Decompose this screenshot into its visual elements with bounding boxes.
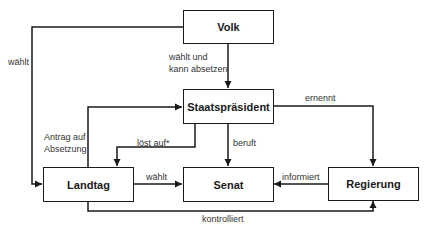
edge-landtag-staatspraesident	[88, 107, 182, 167]
node-regierung: Regierung	[328, 167, 419, 201]
node-staatspraesident: Staatspräsident	[183, 89, 274, 124]
node-landtag-label: Landtag	[67, 179, 110, 191]
edge-staatspraesident-regierung	[273, 106, 373, 166]
label-staatspraesident-landtag: löst auf*	[137, 138, 170, 150]
label-volk-landtag: wählt	[8, 57, 29, 69]
label-landtag-senat: wählt	[146, 172, 167, 184]
label-volk-staatspraesident-2: kann absetzen	[169, 64, 228, 76]
node-landtag: Landtag	[43, 167, 134, 202]
label-staatspraesident-senat: beruft	[233, 138, 256, 150]
label-volk-staatspraesident-1: wählt und	[169, 52, 208, 64]
node-volk-label: Volk	[217, 21, 239, 33]
node-staatspraesident-label: Staatspräsident	[187, 101, 270, 113]
label-regierung-senat: informiert	[282, 172, 320, 184]
label-landtag-staatspraesident-1: Antrag auf	[44, 132, 86, 144]
node-regierung-label: Regierung	[346, 178, 400, 190]
edge-volk-landtag	[32, 27, 183, 184]
node-senat-label: Senat	[214, 179, 244, 191]
edge-landtag-regierung	[88, 201, 373, 211]
node-senat: Senat	[183, 167, 274, 202]
label-landtag-staatspraesident-2: Absetzung	[44, 144, 87, 156]
label-landtag-regierung: kontrolliert	[202, 214, 244, 226]
label-staatspraesident-regierung: ernennt	[305, 93, 336, 105]
node-volk: Volk	[183, 10, 274, 44]
